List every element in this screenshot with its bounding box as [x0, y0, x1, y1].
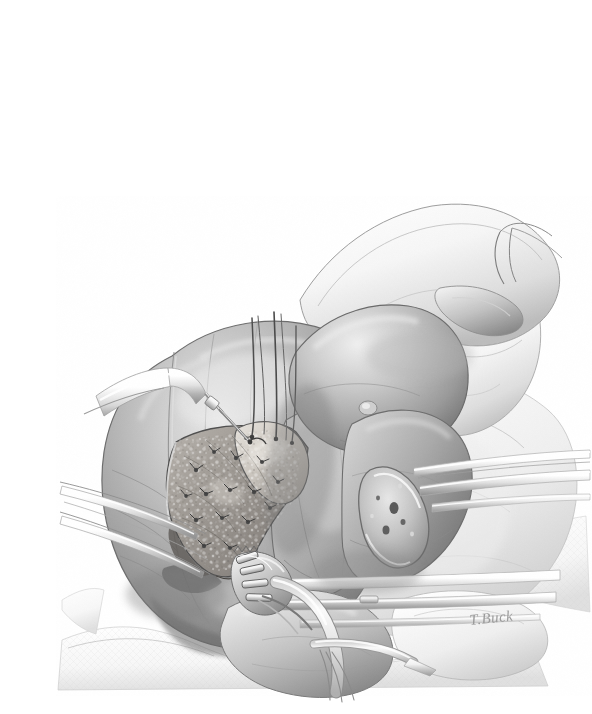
surgical-illustration: T.Buck — [0, 0, 592, 714]
illustration-page: T.Buck Hepatic resection — hemostasis of… — [0, 0, 592, 714]
